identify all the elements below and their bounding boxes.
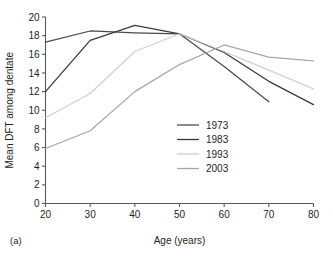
series-lines — [46, 25, 314, 148]
y-tick-label: 10 — [28, 105, 40, 116]
x-tick-label: 30 — [85, 209, 97, 220]
y-tick-label: 0 — [34, 198, 40, 209]
legend-label-1973: 1973 — [206, 120, 229, 131]
series-line-1973 — [46, 31, 269, 102]
y-tick-label: 14 — [28, 68, 40, 79]
y-tick-label: 6 — [34, 142, 40, 153]
legend-label-1993: 1993 — [206, 149, 229, 160]
y-axis-title: Mean DFT among dentate — [4, 52, 15, 169]
chart-legend: 1973198319932003 — [177, 120, 229, 175]
figure-panel-a: 02468101214161820 20304050607080 1973198… — [0, 0, 333, 267]
y-tick-label: 18 — [28, 30, 40, 41]
x-tick-label: 50 — [174, 209, 186, 220]
y-tick-label: 12 — [28, 86, 40, 97]
legend-label-1983: 1983 — [206, 134, 229, 145]
x-axis-tick-labels: 20304050607080 — [40, 209, 320, 220]
x-tick-label: 20 — [40, 209, 52, 220]
panel-label: (a) — [10, 235, 22, 246]
y-tick-label: 8 — [34, 124, 40, 135]
y-axis-tick-labels: 02468101214161820 — [28, 12, 40, 210]
x-tick-label: 60 — [219, 209, 231, 220]
y-tick-label: 2 — [34, 179, 40, 190]
x-tick-label: 80 — [308, 209, 320, 220]
x-tick-label: 70 — [263, 209, 275, 220]
y-tick-label: 4 — [34, 161, 40, 172]
legend-label-2003: 2003 — [206, 163, 229, 174]
series-line-2003 — [46, 45, 314, 149]
x-tick-label: 40 — [129, 209, 141, 220]
y-tick-label: 16 — [28, 49, 40, 60]
y-tick-label: 20 — [28, 12, 40, 23]
axis-tick-marks — [42, 17, 314, 207]
x-axis-title: Age (years) — [154, 235, 206, 246]
line-chart: 02468101214161820 20304050607080 1973198… — [0, 0, 333, 267]
